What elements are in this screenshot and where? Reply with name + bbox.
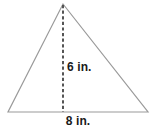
triangle-figure: 6 in. 8 in. <box>0 0 156 130</box>
base-dimension-label: 8 in. <box>0 115 156 127</box>
triangle-outline <box>8 4 148 112</box>
height-dimension-label: 6 in. <box>67 61 92 73</box>
